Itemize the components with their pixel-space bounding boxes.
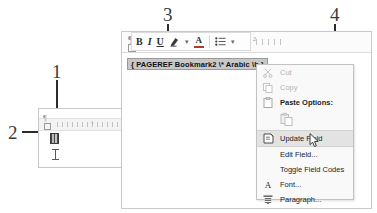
mini-formatting-toolbar[interactable]: B I U ▾ A ▾ [131, 32, 251, 51]
list-dropdown-arrow-icon[interactable]: ▾ [231, 37, 235, 47]
field-code-text[interactable]: { PAGEREF Bookmark2 \* Arabic \h } [127, 58, 268, 70]
italic-button[interactable]: I [148, 37, 152, 47]
menu-item-edit-field-label: Edit Field... [280, 150, 318, 159]
menu-item-paragraph[interactable]: Paragraph... [257, 192, 353, 207]
font-color-letter: A [194, 36, 204, 45]
menu-item-paste-options-label: Paste Options: [280, 98, 333, 107]
menu-item-copy-label: Copy [280, 83, 298, 92]
context-menu[interactable]: Cut Copy Paste Options: [256, 64, 354, 200]
toolbar-divider [209, 35, 210, 48]
paragraph-icon [262, 194, 274, 206]
callout-number-2: 2 [8, 123, 18, 142]
menu-item-paragraph-label: Paragraph... [280, 195, 321, 204]
menu-item-toggle-field-codes-label: Toggle Field Codes [280, 165, 344, 174]
clipboard-icon [262, 97, 274, 109]
callout-number-1: 1 [52, 62, 62, 81]
paste-keep-source-formatting-icon[interactable] [280, 112, 293, 126]
text-highlight-color-icon[interactable] [169, 36, 180, 47]
callout-number-4: 4 [330, 5, 340, 24]
update-field-icon [262, 133, 274, 145]
figure-root: 1 2 3 4 1 ¶ 1 2 ¶ B I U [0, 0, 377, 213]
underline-button[interactable]: U [157, 37, 164, 47]
scissors-icon [262, 67, 274, 79]
font-A-icon: A [262, 179, 274, 191]
copy-icon [262, 82, 274, 94]
highlight-dropdown-arrow-icon[interactable]: ▾ [185, 37, 189, 47]
menu-item-toggle-field-codes[interactable]: Toggle Field Codes [257, 162, 353, 177]
main-ruler-number-2: 2 [253, 36, 256, 42]
menu-item-update-field[interactable]: Update Field [257, 130, 353, 147]
callout-number-3: 3 [163, 5, 173, 24]
bullet-list-icon[interactable] [215, 37, 226, 46]
font-color-swatch [194, 46, 204, 48]
ruler-number-1: 1 [91, 120, 94, 125]
menu-item-copy[interactable]: Copy [257, 80, 353, 95]
paragraph-mark-icon: ¶ [43, 115, 47, 123]
menu-item-cut-label: Cut [280, 68, 292, 77]
font-color-icon[interactable]: A [194, 36, 204, 48]
menu-item-paste-options: Paste Options: [257, 95, 353, 110]
menu-item-cut[interactable]: Cut [257, 65, 353, 80]
menu-item-font[interactable]: A Font... [257, 177, 353, 192]
tab-stop-icon[interactable] [44, 123, 51, 130]
selected-field-chip[interactable] [50, 133, 59, 144]
bold-button[interactable]: B [136, 37, 143, 47]
mouse-pointer-icon [309, 133, 320, 148]
menu-item-edit-field[interactable]: Edit Field... [257, 147, 353, 162]
text-ibeam-cursor-icon [52, 149, 59, 160]
menu-item-font-label: Font... [280, 180, 301, 189]
paste-option-buttons-row[interactable] [257, 110, 353, 127]
